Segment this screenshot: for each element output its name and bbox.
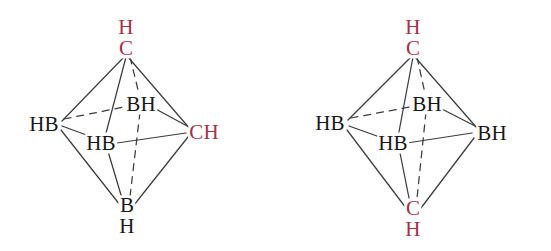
vertex-line: BH <box>126 94 156 115</box>
left-structure-top-vertex: H C <box>117 17 134 58</box>
right-structure-left-vertex: HB <box>314 113 346 134</box>
vertex-line: BH <box>412 94 442 115</box>
vertex-line: B <box>119 195 134 216</box>
vertex-line: C <box>405 38 420 59</box>
vertex-line: H <box>405 17 420 38</box>
right-structure-bottom-vertex: C H <box>404 198 421 239</box>
right-structure-back-vertex: BH <box>411 94 443 115</box>
edge-top-left <box>62 57 124 121</box>
edge-back-right <box>438 107 475 126</box>
carborane-structures-figure: H C HB CH BH HB B H <box>0 0 551 251</box>
vertex-line: HB <box>29 114 59 135</box>
edge-right-bottom <box>421 138 474 208</box>
edge-back-right <box>152 107 189 127</box>
structure-right-octahedron: H C HB BH BH HB C H <box>276 0 551 251</box>
vertex-line: BH <box>477 123 507 144</box>
left-structure-bottom-vertex: B H <box>118 195 135 236</box>
edge-back-bottom <box>129 112 140 205</box>
edge-top-front <box>105 57 126 137</box>
vertex-line: HB <box>315 113 345 134</box>
edge-back-bottom <box>416 112 426 208</box>
right-structure-front-vertex: HB <box>377 133 409 154</box>
left-structure-right-vertex: CH <box>188 122 220 143</box>
vertex-line: CH <box>189 122 219 143</box>
vertex-line: HB <box>86 133 116 154</box>
right-structure-right-vertex: BH <box>476 123 508 144</box>
left-structure-front-vertex: HB <box>85 133 117 154</box>
right-structure-top-vertex: H C <box>404 17 421 58</box>
vertex-line: H <box>118 17 133 38</box>
edge-top-left <box>348 57 411 120</box>
edge-right-bottom <box>134 137 188 205</box>
vertex-line: H <box>119 216 134 237</box>
vertex-line: HB <box>378 133 408 154</box>
vertex-line: C <box>118 38 133 59</box>
edge-front-right <box>407 133 472 143</box>
left-structure-left-vertex: HB <box>28 114 60 135</box>
left-structure-back-vertex: BH <box>125 94 157 115</box>
edge-front-right <box>117 133 186 143</box>
edge-left-back <box>64 106 129 119</box>
vertex-line: C <box>405 198 420 219</box>
structure-left-octahedron: H C HB CH BH HB B H <box>0 0 275 251</box>
vertex-line: H <box>405 219 420 240</box>
